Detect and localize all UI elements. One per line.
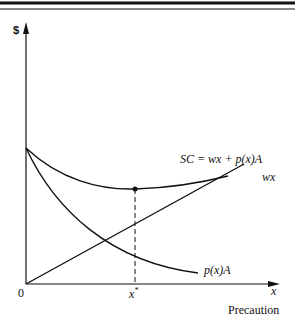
- sc-label: SC = wx + p(x)A: [180, 152, 262, 167]
- x-axis-label: x: [271, 284, 276, 299]
- y-axis-arrow-icon: [23, 22, 29, 34]
- px-curve: [26, 148, 198, 273]
- x-star-label: x*: [129, 286, 138, 302]
- px-label: p(x)A: [204, 263, 231, 278]
- y-axis-label: $: [13, 24, 19, 36]
- origin-label: 0: [18, 286, 24, 301]
- precaution-label: Precaution: [228, 303, 279, 318]
- wx-label: wx: [262, 170, 275, 185]
